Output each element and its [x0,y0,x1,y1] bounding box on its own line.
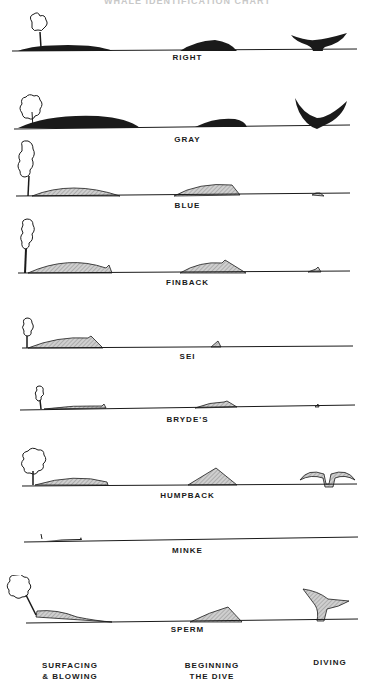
species-row-finback: FINBACK [0,215,375,295]
humpback-whale-illustration [0,445,375,510]
species-label-minke: MINKE [0,546,375,555]
species-label-finback: FINBACK [0,278,375,287]
species-row-humpback: HUMPBACK [0,445,375,510]
species-row-sperm: SPERM [0,575,375,635]
species-row-minke: MINKE [0,525,375,565]
species-label-sei: SEI [0,352,375,361]
species-row-sei: SEI [0,310,375,370]
brydes-whale-illustration [0,380,375,440]
stage-label-beginning-dive: BEGINNING THE DIVE [172,660,252,682]
species-label-humpback: HUMPBACK [0,491,375,500]
species-row-blue: BLUE [0,140,375,215]
species-row-right: RIGHT [0,10,375,70]
species-label-right: RIGHT [0,53,375,62]
minke-whale-illustration [0,525,375,565]
species-row-brydes: BRYDE'S [0,380,375,440]
chart-title: WHALE IDENTIFICATION CHART [0,0,375,6]
species-label-sperm: SPERM [0,625,375,634]
stage-label-surfacing: SURFACING & BLOWING [30,660,110,682]
sei-whale-illustration [0,310,375,370]
species-label-blue: BLUE [0,201,375,210]
species-label-brydes: BRYDE'S [0,415,375,424]
stage-label-diving: DIVING [300,657,360,668]
